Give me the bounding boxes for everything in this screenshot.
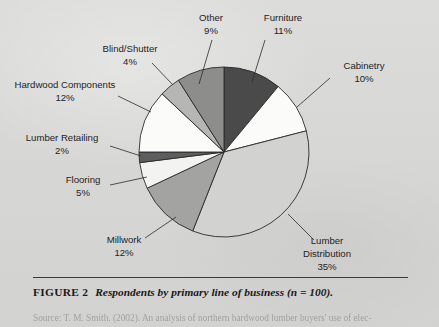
pie-label-millwork-pct: 12% (114, 247, 134, 258)
pie-label-furniture-name: Furniture (264, 12, 302, 23)
leader-line-hardwood-components (118, 96, 151, 112)
pie-chart: Other 9% Furniture 11% Blind/Shutter 4% … (0, 0, 439, 278)
figure-source-note: Source: T. M. Smith. (2002). An analysis… (33, 313, 433, 323)
pie-label-lumber-retailing-pct: 2% (55, 145, 69, 156)
pie-label-cabinetry-pct: 10% (354, 73, 374, 84)
caption-divider (33, 277, 408, 278)
pie-label-millwork-name: Millwork (107, 234, 142, 245)
leader-line-flooring (110, 177, 147, 185)
pie-label-lumber-distribution-name-line2: Distribution (303, 248, 351, 259)
pie-label-lumber-distribution-name-line1: Lumber (311, 235, 344, 246)
pie-label-flooring-pct: 5% (76, 187, 90, 198)
leader-line-millwork (145, 217, 176, 238)
leader-line-cabinetry (297, 78, 330, 107)
pie-label-lumber-distribution-pct: 35% (317, 261, 337, 272)
pie-label-blind-shutter-name: Blind/Shutter (103, 43, 159, 54)
pie-slices (139, 67, 309, 237)
figure-number: FIGURE 2 (33, 286, 88, 298)
pie-label-flooring-name: Flooring (66, 174, 101, 185)
pie-label-hardwood-components-pct: 12% (55, 92, 75, 103)
figure-caption: FIGURE 2Respondents by primary line of b… (33, 286, 425, 298)
pie-label-furniture-pct: 11% (274, 25, 293, 36)
figure-title: Respondents by primary line of business … (95, 286, 333, 298)
pie-label-hardwood-components-name: Hardwood Components (15, 79, 116, 90)
pie-label-other-pct: 9% (204, 25, 218, 36)
pie-label-blind-shutter-pct: 4% (123, 56, 137, 67)
pie-label-other-name: Other (199, 12, 224, 23)
pie-label-cabinetry-name: Cabinetry (343, 60, 384, 71)
leader-line-blind-shutter (152, 63, 173, 85)
leader-line-lumber-retailing (110, 146, 141, 156)
pie-label-lumber-retailing-name: Lumber Retailing (26, 132, 99, 143)
figure-area: Other 9% Furniture 11% Blind/Shutter 4% … (0, 0, 439, 278)
